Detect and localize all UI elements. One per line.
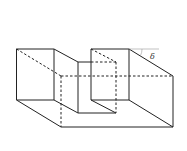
left-prong — [17, 49, 79, 113]
u-shaped-block-diagram: δ — [0, 0, 187, 151]
angle-label: δ — [150, 52, 155, 61]
right-prong — [91, 49, 173, 127]
notch — [78, 49, 116, 113]
angle-annotation: δ — [129, 49, 159, 61]
